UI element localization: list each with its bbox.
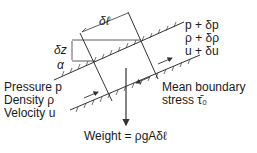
shear-arrow	[136, 77, 150, 83]
boundary-stress-line2: stress τ̄₀	[162, 94, 207, 107]
inlet-velocity: Velocity u	[4, 107, 55, 120]
height-label: δz	[54, 44, 67, 57]
angle-label: α	[57, 59, 64, 72]
length-label: δℓ	[99, 15, 110, 28]
flow-arrow-inlet	[84, 92, 98, 98]
outlet-velocity: u + δu	[185, 45, 219, 58]
flow-arrow-outlet	[158, 58, 172, 64]
upper-wall	[54, 22, 184, 80]
weight-label: Weight = ρgAδℓ	[84, 130, 167, 143]
height-dimension	[72, 40, 140, 61]
element-sides	[80, 12, 158, 101]
